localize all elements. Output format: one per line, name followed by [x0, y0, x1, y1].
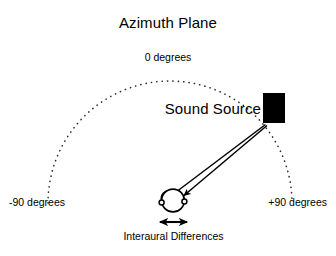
- right-ear: [182, 199, 187, 204]
- right-azimuth-label: +90 degrees: [268, 197, 327, 208]
- ray-to-right-ear: [184, 126, 267, 196]
- front-azimuth-label: 0 degrees: [0, 52, 336, 63]
- sound-source-label: Sound Source: [0, 101, 261, 116]
- ray-to-left-ear: [168, 125, 266, 199]
- listener-head: [162, 189, 185, 212]
- left-azimuth-label: -90 degrees: [9, 197, 65, 208]
- left-ear: [159, 200, 164, 205]
- diagram-canvas: [0, 0, 336, 256]
- page-title: Azimuth Plane: [0, 15, 336, 30]
- interaural-differences-label: Interaural Differences: [36, 231, 311, 242]
- azimuth-plane-figure: Azimuth Plane 0 degrees -90 degrees +90 …: [0, 0, 336, 256]
- sound-source-box: [263, 93, 285, 123]
